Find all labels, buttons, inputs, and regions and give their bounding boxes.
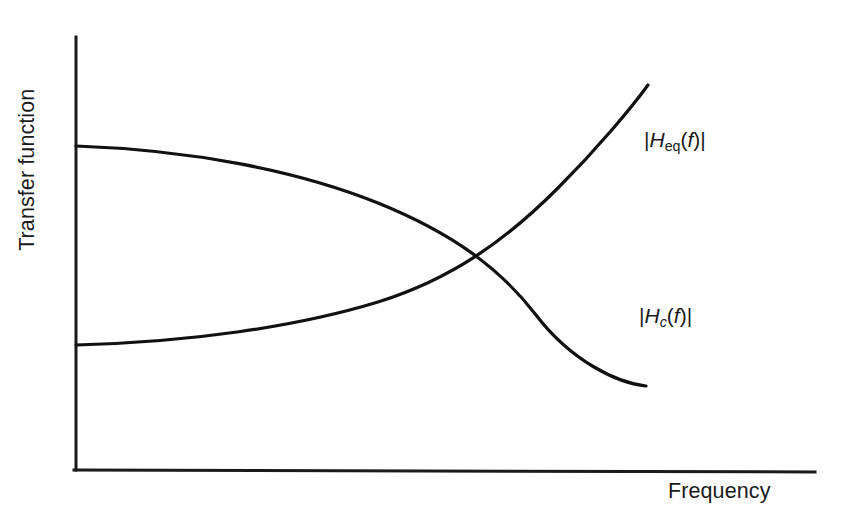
abs-bar-close-icon: | (687, 304, 692, 327)
hc-paren-open: ( (667, 304, 674, 327)
hc-paren-close: ) (680, 304, 687, 327)
x-axis-label-text: Frequency (668, 479, 770, 503)
y-axis-label: Transfer function (0, 0, 56, 340)
x-axis-line (74, 470, 815, 472)
x-axis-label: Frequency (668, 481, 770, 503)
transfer-function-plot (0, 0, 855, 514)
hc-subscript: c (660, 314, 667, 330)
hc-symbol-h: H (644, 304, 659, 327)
curve-label-channel: |Hc(f)| (639, 305, 692, 326)
heq-subscript: eq (665, 138, 681, 154)
curve-equalizer (76, 85, 648, 345)
heq-paren-open: ( (681, 128, 688, 151)
curve-channel (76, 146, 646, 386)
curve-label-equalizer: |Heq(f)| (644, 129, 706, 150)
figure-canvas: Transfer function Frequency |Heq(f)| |Hc… (0, 0, 855, 514)
y-axis-label-text: Transfer function (17, 89, 39, 251)
heq-symbol-h: H (649, 128, 664, 151)
abs-bar-close-icon: | (700, 128, 705, 151)
